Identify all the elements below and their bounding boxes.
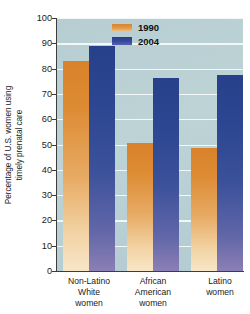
y-axis-tick-labels: 100 90 80 70 60 50 40 30 20 10 0 [24, 0, 52, 314]
y-tick-label-70: 70 [42, 90, 52, 99]
bar-1990-african-american-women [127, 143, 153, 271]
bar-2004-non-latino-white-women [89, 46, 115, 271]
y-axis-title-line-1: Percentage of U.S. women using [3, 86, 14, 204]
y-axis-line [56, 18, 57, 272]
x-label-line: Latino [185, 276, 250, 287]
prenatal-care-bar-chart: Percentage of U.S. women using timely pr… [0, 0, 250, 314]
y-tick-label-30: 30 [42, 191, 52, 200]
y-tick-label-100: 100 [37, 14, 52, 23]
x-axis-line [56, 271, 244, 272]
legend-label-1990: 1990 [138, 23, 159, 33]
y-axis-title-line-2: timely prenatal care [13, 86, 24, 204]
x-label-line: women [117, 298, 189, 309]
x-label-line: American [117, 287, 189, 298]
y-tick-label-40: 40 [42, 166, 52, 175]
y-tick-label-50: 50 [42, 141, 52, 150]
chart-legend: 1990 2004 [108, 20, 164, 49]
legend-swatch-icon-2004 [112, 37, 132, 45]
bar-1990-non-latino-white-women [63, 61, 89, 271]
y-tick-label-20: 20 [42, 216, 52, 225]
legend-item-1990: 1990 [112, 23, 159, 33]
x-label-latino-women: Latino women [185, 276, 250, 298]
legend-item-2004: 2004 [112, 37, 159, 47]
x-axis-tick-labels: Non-Latino White women African American … [57, 276, 243, 314]
x-label-line: women [185, 287, 250, 298]
y-tick-label-80: 80 [42, 65, 52, 74]
x-label-african-american-women: African American women [117, 276, 189, 309]
x-label-line: African [117, 276, 189, 287]
bar-1990-latino-women [191, 148, 217, 271]
bar-2004-latino-women [217, 75, 243, 271]
y-tick-label-10: 10 [42, 242, 52, 251]
legend-swatch-icon-1990 [112, 24, 132, 32]
y-axis-title: Percentage of U.S. women using timely pr… [0, 18, 26, 272]
legend-label-2004: 2004 [138, 37, 159, 47]
bar-2004-african-american-women [153, 78, 179, 272]
y-tick-label-60: 60 [42, 115, 52, 124]
plot-area [57, 18, 243, 271]
y-tick-label-90: 90 [42, 39, 52, 48]
